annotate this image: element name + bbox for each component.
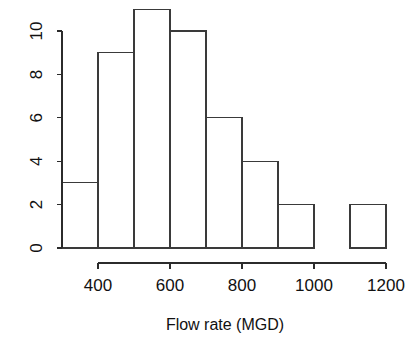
- y-tick-label-6: 6: [27, 113, 46, 122]
- y-tick-label-4: 4: [27, 156, 46, 165]
- histogram-bar: [242, 161, 278, 248]
- flow-rate-axis: 400 600 800 1000 1200: [84, 263, 405, 295]
- histogram-bar: [350, 205, 386, 248]
- y-tick-label-0: 0: [27, 243, 46, 252]
- histogram-bar: [62, 183, 98, 248]
- histogram-bars: [62, 9, 386, 248]
- histogram-bar: [134, 9, 170, 248]
- x-tick-label-1000: 1000: [295, 276, 333, 295]
- histogram-bar: [206, 118, 242, 248]
- x-tick-label-1200: 1200: [367, 276, 405, 295]
- histogram-bar: [170, 31, 206, 248]
- y-tick-label-8: 8: [27, 70, 46, 79]
- y-tick-label-10: 10: [27, 22, 46, 41]
- x-tick-label-400: 400: [84, 276, 112, 295]
- x-tick-label-600: 600: [156, 276, 184, 295]
- histogram-bar: [98, 53, 134, 248]
- x-tick-label-800: 800: [228, 276, 256, 295]
- x-axis-title: Flow rate (MGD): [166, 316, 284, 333]
- flow-rate-histogram-canvas: 0 2 4 6 8 10 400 600 800 1000 1200 Flow …: [0, 0, 407, 358]
- histogram-bar: [278, 205, 314, 248]
- histogram-figure: 0 2 4 6 8 10 400 600 800 1000 1200 Flow …: [0, 0, 407, 358]
- count-axis: 0 2 4 6 8 10: [27, 22, 62, 253]
- y-tick-label-2: 2: [27, 200, 46, 209]
